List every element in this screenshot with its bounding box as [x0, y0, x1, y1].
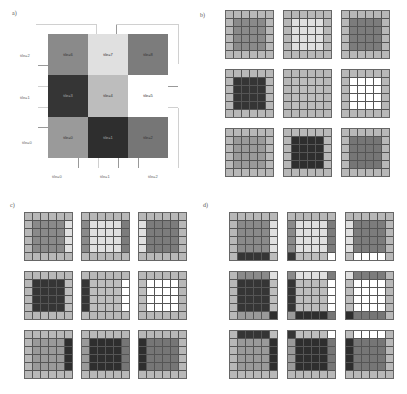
- grid-cell: [106, 213, 113, 220]
- tile-cell: tile=8: [128, 34, 168, 75]
- row-label: tile=2: [20, 53, 30, 58]
- grid-cell: [41, 245, 48, 252]
- grid-cell: [346, 245, 353, 252]
- grid-cell: [238, 347, 245, 354]
- grid-cell: [33, 347, 40, 354]
- tile-boundary-line: [36, 24, 96, 25]
- grid-cell: [266, 110, 273, 117]
- grid-cell: [82, 229, 89, 236]
- grid-cell: [262, 229, 269, 236]
- grid-cell: [262, 288, 269, 295]
- grid-cell: [106, 339, 113, 346]
- grid-cell: [354, 253, 361, 260]
- grid-cell: [346, 253, 353, 260]
- grid-cell: [234, 153, 241, 160]
- grid-cell: [106, 371, 113, 378]
- grid-cell: [230, 363, 237, 370]
- grid-cell: [57, 245, 64, 252]
- grid-cell: [362, 363, 369, 370]
- grid-cell: [270, 296, 277, 303]
- grid-cell: [155, 245, 162, 252]
- grid-cell: [179, 363, 186, 370]
- grid-cell: [171, 272, 178, 279]
- grid-cell: [234, 27, 241, 34]
- grid-cell: [226, 169, 233, 176]
- grid-cell: [246, 253, 253, 260]
- tile-8: [345, 212, 394, 261]
- grid-cell: [262, 296, 269, 303]
- grid-cell: [57, 229, 64, 236]
- grid-cell: [366, 137, 373, 144]
- grid-cell: [296, 245, 303, 252]
- grid-cell: [354, 371, 361, 378]
- grid-cell: [300, 110, 307, 117]
- grid-cell: [270, 312, 277, 319]
- grid-cell: [292, 129, 299, 136]
- grid-cell: [370, 312, 377, 319]
- grid-cell: [304, 280, 311, 287]
- grid-cell: [270, 237, 277, 244]
- grid-cell: [238, 229, 245, 236]
- grid-cell: [342, 27, 349, 34]
- grid-cell: [242, 19, 249, 26]
- grid-cell: [33, 245, 40, 252]
- grid-cell: [25, 339, 32, 346]
- grid-cell: [163, 253, 170, 260]
- grid-cell: [114, 288, 121, 295]
- grid-cell: [342, 51, 349, 58]
- grid-cell: [386, 347, 393, 354]
- grid-cell: [82, 347, 89, 354]
- grid-cell: [284, 27, 291, 34]
- grid-cell: [378, 253, 385, 260]
- grid-cell: [308, 78, 315, 85]
- grid-cell: [139, 288, 146, 295]
- grid-cell: [171, 304, 178, 311]
- grid-cell: [374, 169, 381, 176]
- grid-cell: [386, 288, 393, 295]
- grid-cell: [358, 161, 365, 168]
- grid-cell: [33, 331, 40, 338]
- grid-cell: [250, 51, 257, 58]
- grid-cell: [90, 355, 97, 362]
- grid-cell: [155, 355, 162, 362]
- grid-cell: [288, 355, 295, 362]
- grid-cell: [300, 35, 307, 42]
- grid-cell: [90, 347, 97, 354]
- grid-cell: [122, 331, 129, 338]
- grid-cell: [230, 371, 237, 378]
- grid-cell: [122, 355, 129, 362]
- grid-cell: [324, 169, 331, 176]
- grid-cell: [288, 363, 295, 370]
- grid-cell: [378, 221, 385, 228]
- grid-cell: [262, 221, 269, 228]
- grid-cell: [288, 339, 295, 346]
- grid-cell: [312, 213, 319, 220]
- grid-cell: [324, 161, 331, 168]
- grid-cell: [304, 221, 311, 228]
- grid-cell: [358, 86, 365, 93]
- grid-cell: [114, 363, 121, 370]
- grid-cell: [163, 347, 170, 354]
- grid-cell: [358, 137, 365, 144]
- grid-cell: [292, 70, 299, 77]
- grid-cell: [90, 272, 97, 279]
- grid-cell: [238, 339, 245, 346]
- grid-cell: [304, 355, 311, 362]
- grid-cell: [270, 288, 277, 295]
- grid-cell: [370, 304, 377, 311]
- grid-cell: [147, 339, 154, 346]
- grid-cell: [155, 221, 162, 228]
- grid-cell: [242, 145, 249, 152]
- grid-cell: [234, 51, 241, 58]
- grid-cell: [328, 296, 335, 303]
- grid-cell: [139, 371, 146, 378]
- grid-cell: [106, 355, 113, 362]
- grid-cell: [90, 304, 97, 311]
- grid-cell: [312, 363, 319, 370]
- grid-cell: [358, 70, 365, 77]
- grid-cell: [312, 253, 319, 260]
- row-label: tile=1: [20, 95, 30, 100]
- grid-cell: [57, 221, 64, 228]
- grid-cell: [49, 339, 56, 346]
- grid-cell: [163, 355, 170, 362]
